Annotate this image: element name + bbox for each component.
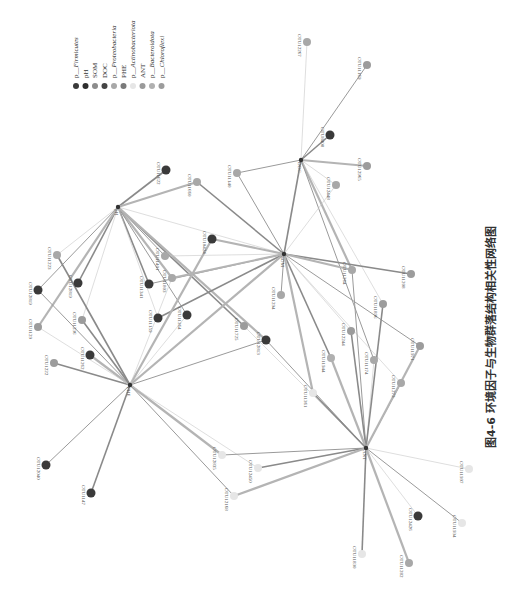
- network-edge: [118, 207, 172, 278]
- otu-label: OTU12040: [36, 457, 41, 480]
- otu-node: [326, 131, 335, 140]
- otu-node: [208, 235, 217, 244]
- hub-label: PHE: [126, 387, 131, 396]
- hub-label: pH: [114, 209, 119, 216]
- otu-label: OTU11159: [148, 310, 153, 333]
- otu-label: OTU11725: [234, 318, 239, 341]
- otu-node: [363, 61, 371, 69]
- otu-label: OTU12426: [408, 508, 413, 531]
- otu-node: [86, 351, 95, 360]
- figure-caption: 图4-6 环境因子与生物群落结构相关性网络图: [482, 248, 498, 448]
- otu-node: [370, 356, 378, 364]
- legend-label: pH: [82, 69, 90, 78]
- otu-label: OTU8408: [320, 127, 325, 148]
- otu-node: [53, 251, 61, 259]
- network-edge: [172, 254, 284, 278]
- network-edge: [362, 448, 366, 554]
- otu-label: OTU1147: [81, 485, 86, 506]
- otu-label: OTU11364: [177, 307, 182, 330]
- otu-node: [154, 314, 163, 323]
- otu-node: [277, 291, 285, 299]
- otu-label: OTU11944: [321, 350, 326, 373]
- network-edge: [366, 304, 383, 448]
- otu-label: OTU11622: [156, 162, 161, 185]
- otu-label: OTU11896: [373, 296, 378, 319]
- otu-node: [145, 280, 154, 289]
- otu-label: OTU12244: [341, 323, 346, 346]
- legend-label: p__Actinobacteriota: [129, 20, 137, 78]
- network-edge: [237, 173, 284, 254]
- otu-node: [230, 492, 238, 500]
- otu-label: OTU12819: [68, 275, 73, 298]
- network-edge: [284, 160, 301, 254]
- otu-label: OTU11341: [139, 276, 144, 299]
- legend-swatch: [102, 83, 108, 89]
- otu-node: [332, 181, 340, 189]
- otu-node: [309, 389, 317, 397]
- hub-label: ANT: [362, 450, 367, 460]
- otu-node: [379, 300, 387, 308]
- otu-label: OTU11273: [391, 375, 396, 398]
- legend-label: SOM: [91, 62, 99, 78]
- otu-label: OTU12168: [224, 488, 229, 511]
- network-edge: [301, 42, 307, 160]
- network-edge: [366, 448, 469, 469]
- hub-label: DOC: [297, 162, 302, 173]
- otu-label: OTU12965: [357, 158, 362, 181]
- otu-node: [74, 279, 83, 288]
- network-edge: [118, 182, 197, 207]
- otu-label: OTU11223: [47, 247, 52, 270]
- otu-label: OTU11282: [399, 555, 404, 578]
- legend-swatch: [121, 83, 127, 89]
- otu-label: OTU1222: [44, 355, 49, 376]
- network-edge: [284, 254, 352, 270]
- legend-item: ANT: [139, 63, 147, 89]
- otu-label: OTU11236: [72, 312, 77, 335]
- otu-label: OTU11361: [303, 385, 308, 408]
- otu-node: [458, 519, 466, 527]
- legend-label: p__Chloroflexi: [158, 36, 166, 78]
- otu-node: [42, 461, 51, 470]
- network-edge: [130, 385, 234, 496]
- legend-label: p__Proteobacteria: [110, 25, 118, 78]
- otu-node: [405, 559, 413, 567]
- network-edge: [130, 239, 212, 385]
- otu-node: [87, 489, 96, 498]
- network-edge: [130, 385, 222, 455]
- otu-node: [162, 166, 171, 175]
- otu-label: OTU11660: [187, 174, 192, 197]
- legend-label: DOC: [101, 63, 109, 78]
- otu-label: OTU11262: [80, 347, 85, 370]
- legend-swatch: [111, 83, 117, 89]
- otu-label: OTU11997: [459, 461, 464, 484]
- otu-node: [397, 379, 405, 387]
- network-edge: [301, 160, 383, 304]
- otu-label: OTU11830: [352, 546, 357, 569]
- otu-node: [347, 327, 355, 335]
- legend-item: p__Actinobacteriota: [129, 20, 137, 89]
- figure-caption-container: 图4-6 环境因子与生物群落结构相关性网络图: [480, 250, 500, 450]
- otu-label: OTU11169: [357, 57, 362, 80]
- otu-node: [78, 316, 86, 324]
- legend-swatch: [83, 83, 89, 89]
- otu-label: OTU11934: [452, 515, 457, 538]
- legend-item: p__Bacteroidota: [148, 31, 156, 89]
- otu-node: [34, 323, 42, 331]
- network-edge: [237, 160, 301, 173]
- otu-node: [363, 162, 371, 170]
- legend-item: PHE: [120, 65, 128, 89]
- otu-node: [465, 465, 473, 473]
- otu-label: OTU12813: [256, 332, 261, 355]
- legend-item: DOC: [101, 63, 109, 89]
- network-edge: [57, 255, 130, 385]
- otu-node: [34, 286, 43, 295]
- otu-node: [240, 322, 248, 330]
- legend-label: ANT: [139, 63, 147, 78]
- hub-label: SOM: [280, 256, 285, 267]
- legend: p__FirmicutespHSOMDOCp__ProteobacteriaPH…: [72, 20, 172, 140]
- otu-label: OTU11264: [342, 262, 347, 285]
- network-edge: [46, 385, 130, 465]
- otu-node: [358, 550, 366, 558]
- otu-node: [416, 342, 424, 350]
- otu-node: [50, 359, 58, 367]
